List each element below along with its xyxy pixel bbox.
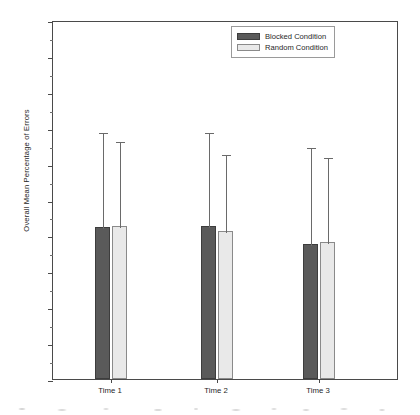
error-bar-stem [120, 142, 121, 228]
plot-area: 0102030405060708090100 [52, 21, 398, 380]
y-axis-tick [48, 22, 53, 23]
legend-item-blocked: Blocked Condition [237, 31, 328, 42]
error-bar-cap [222, 155, 231, 156]
error-bar-cap [324, 158, 333, 159]
y-axis-minor-tick [50, 76, 53, 77]
error-bar-cap [205, 133, 214, 134]
bar-random [320, 242, 335, 379]
error-bar-stem [328, 158, 329, 243]
y-axis-minor-tick [50, 255, 53, 256]
legend-swatch-random-icon [237, 44, 260, 51]
error-bar-cap [307, 148, 316, 149]
y-axis-tick [48, 166, 53, 167]
x-axis-tick [319, 379, 320, 383]
x-axis-tick-label: Time 1 [65, 386, 155, 395]
error-bar-stem [311, 148, 312, 247]
chart-legend: Blocked Condition Random Condition [231, 26, 335, 58]
y-axis-tick [48, 273, 53, 274]
x-axis-tick [217, 379, 218, 383]
x-axis-tick-label: Time 2 [171, 386, 261, 395]
legend-swatch-blocked-icon [237, 33, 260, 40]
y-axis-tick [48, 130, 53, 131]
error-bar-cap [99, 133, 108, 134]
legend-label-random: Random Condition [265, 43, 328, 52]
y-axis-tick [48, 58, 53, 59]
y-axis-minor-tick [50, 291, 53, 292]
x-axis-tick-label: Time 3 [273, 386, 363, 395]
error-bar-stem [226, 155, 227, 233]
y-axis-title: Overall Mean Percentage of Errors [22, 11, 31, 331]
y-axis-tick [48, 202, 53, 203]
y-axis-minor-tick [50, 148, 53, 149]
y-axis-tick [48, 381, 53, 382]
y-axis-minor-tick [50, 112, 53, 113]
y-axis-tick [48, 94, 53, 95]
bar-chart-figure: Overall Mean Percentage of Errors 010203… [0, 0, 420, 415]
bar-blocked [303, 244, 318, 379]
y-axis-tick [48, 309, 53, 310]
y-axis-minor-tick [50, 363, 53, 364]
error-bar-cap [116, 142, 125, 143]
x-axis-tick [111, 379, 112, 383]
y-axis-tick [48, 345, 53, 346]
bar-random [112, 226, 127, 379]
legend-item-random: Random Condition [237, 42, 328, 53]
scan-noise-artifact [0, 404, 420, 415]
y-axis-tick [48, 237, 53, 238]
error-bar-stem [103, 133, 104, 229]
y-axis-minor-tick [50, 40, 53, 41]
legend-label-blocked: Blocked Condition [265, 32, 326, 41]
y-axis-minor-tick [50, 184, 53, 185]
y-axis-minor-tick [50, 219, 53, 220]
y-axis-minor-tick [50, 327, 53, 328]
bar-random [218, 231, 233, 379]
bar-blocked [201, 226, 216, 379]
error-bar-stem [209, 133, 210, 228]
bar-blocked [95, 227, 110, 379]
